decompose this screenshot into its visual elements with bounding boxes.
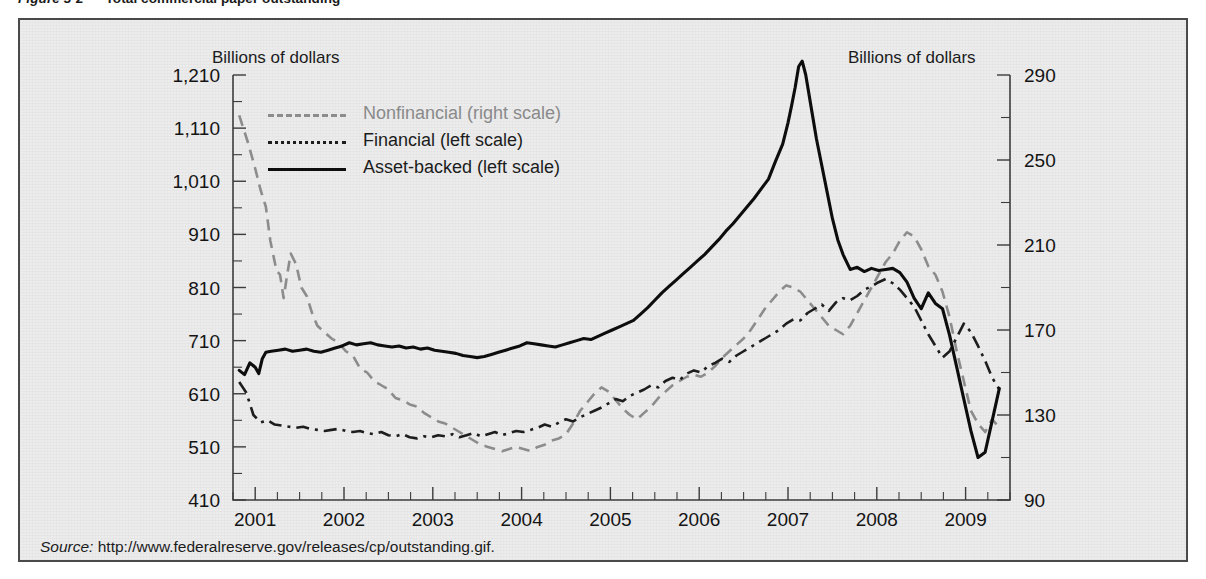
x-axis-tick-label: 2004 [500,509,543,530]
left-axis-tick-label: 910 [188,224,220,245]
legend-label-nonfinancial: Nonfinancial (right scale) [363,103,561,124]
legend-item-financial: Financial (left scale) [268,127,561,154]
legend-label-financial: Financial (left scale) [363,130,523,151]
left-axis-tick-label: 1,210 [172,65,220,86]
x-axis-tick-label: 2005 [589,509,631,530]
x-axis-tick-label: 2009 [944,509,986,530]
legend-line-financial-icon [268,134,346,148]
chart-legend: Nonfinancial (right scale) Financial (le… [268,100,561,181]
legend-line-asset-backed-icon [268,161,346,175]
figure-root: Figure 3-2Total commercial paper outstan… [0,0,1206,579]
x-axis-tick-label: 2003 [412,509,454,530]
chart-plot: 4105106107108109101,0101,1101,2109013017… [0,0,1206,579]
right-axis-tick-label: 210 [1024,235,1056,256]
legend-item-nonfinancial: Nonfinancial (right scale) [268,100,561,127]
source-url: http://www.federalreserve.gov/releases/c… [98,538,495,555]
right-axis-tick-label: 290 [1024,65,1056,86]
x-axis-tick-label: 2001 [234,509,276,530]
left-axis-tick-label: 1,010 [172,171,220,192]
x-axis-tick-label: 2006 [678,509,720,530]
left-axis-tick-label: 410 [188,490,220,511]
source-label: Source: [40,538,93,555]
right-axis-tick-label: 90 [1024,490,1045,511]
legend-label-asset-backed: Asset-backed (left scale) [363,157,560,178]
left-axis-tick-label: 610 [188,384,220,405]
right-axis-tick-label: 250 [1024,150,1056,171]
source-note: Source: http://www.federalreserve.gov/re… [40,538,495,556]
legend-item-asset-backed: Asset-backed (left scale) [268,154,561,181]
left-axis-tick-label: 510 [188,437,220,458]
left-axis-tick-label: 810 [188,278,220,299]
right-axis-tick-label: 130 [1024,405,1056,426]
x-axis-tick-label: 2007 [767,509,809,530]
right-axis-tick-label: 170 [1024,320,1056,341]
left-axis-tick-label: 1,110 [174,118,220,139]
legend-line-nonfinancial-icon [268,107,346,121]
left-axis-tick-label: 710 [188,331,220,352]
x-axis-tick-label: 2008 [856,509,898,530]
x-axis-tick-label: 2002 [323,509,365,530]
